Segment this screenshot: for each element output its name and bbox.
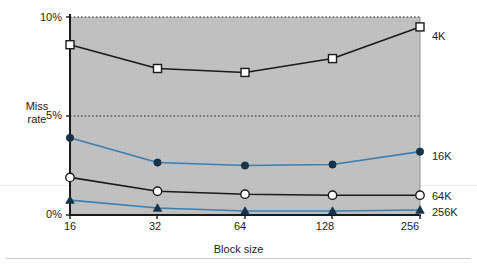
data-point-4k-64 (241, 68, 249, 76)
data-point-16k-256 (416, 148, 423, 155)
data-point-64k-32 (153, 187, 161, 195)
data-point-16k-16 (66, 134, 73, 141)
data-point-4k-256 (416, 23, 424, 31)
data-point-4k-16 (66, 41, 74, 49)
data-point-64k-256 (416, 191, 424, 199)
data-point-64k-16 (66, 173, 74, 181)
plot-area (0, 0, 477, 264)
data-point-4k-32 (154, 64, 162, 72)
data-point-16k-32 (154, 159, 161, 166)
data-point-16k-128 (329, 161, 336, 168)
data-point-16k-64 (241, 162, 248, 169)
data-point-64k-64 (241, 190, 249, 198)
chart-figure: Miss rate 10% 5% 0% 16 32 64 128 256 Blo… (0, 0, 477, 264)
data-point-64k-128 (328, 191, 336, 199)
data-point-4k-128 (329, 55, 337, 63)
